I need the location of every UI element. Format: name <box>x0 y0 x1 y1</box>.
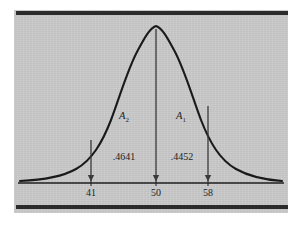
probability-label-right: .4452 <box>171 152 194 162</box>
area-label-left-subscript: 2 <box>125 116 129 124</box>
x-tick-label-50: 50 <box>151 188 161 198</box>
normal-curve-figure: A2 A1 .4641 .4452 41 50 58 <box>0 0 303 227</box>
area-label-left: A2 <box>119 111 129 124</box>
area-label-right-subscript: 1 <box>182 116 186 124</box>
normal-curve-path <box>20 26 282 181</box>
curve-canvas <box>14 10 288 213</box>
area-label-right: A1 <box>176 111 186 124</box>
x-tick-label-58: 58 <box>203 188 213 198</box>
probability-label-left: .4641 <box>113 152 136 162</box>
x-tick-label-41: 41 <box>86 188 96 198</box>
